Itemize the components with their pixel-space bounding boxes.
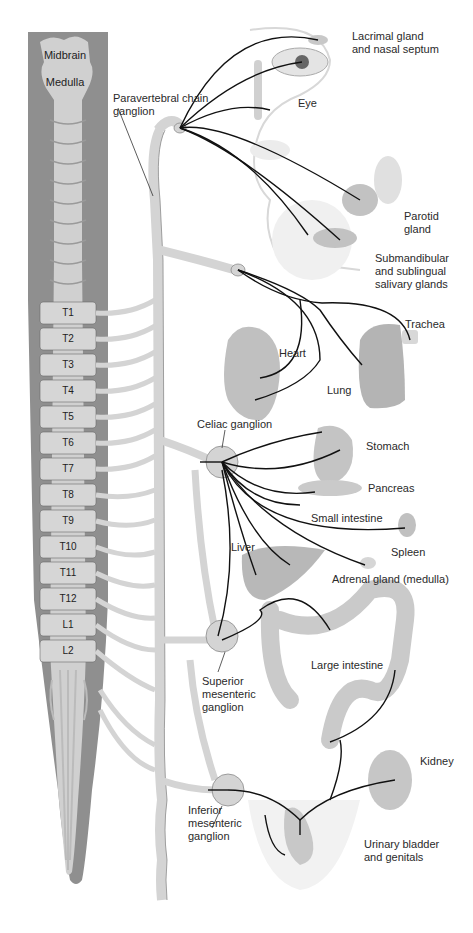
label-heart: Heart xyxy=(279,347,306,360)
stomach-organ xyxy=(314,426,354,485)
segment-l2: L2 xyxy=(53,645,83,656)
label-superior-mesenteric-ganglion: Superior mesenteric ganglion xyxy=(202,675,256,714)
heart-organ xyxy=(224,327,280,421)
label-kidney: Kidney xyxy=(420,755,454,768)
label-paravertebral-ganglion: Paravertebral chain ganglion xyxy=(113,92,208,118)
label-submandibular-glands: Submandibular and sublingual salivary gl… xyxy=(375,252,449,291)
segment-t3: T3 xyxy=(53,359,83,370)
label-medulla: Medulla xyxy=(40,76,90,88)
kidney-organ xyxy=(368,750,412,810)
ear-organ xyxy=(374,156,402,204)
label-large-intestine: Large intestine xyxy=(311,659,383,672)
segment-l1: L1 xyxy=(53,619,83,630)
segment-t1: T1 xyxy=(53,307,83,318)
segment-t11: T11 xyxy=(53,567,83,578)
label-inferior-mesenteric-ganglion: Inferior mesenteric ganglion xyxy=(188,804,242,843)
segment-t8: T8 xyxy=(53,489,83,500)
lung-organ xyxy=(359,324,405,408)
label-spleen: Spleen xyxy=(391,546,425,559)
label-midbrain: Midbrain xyxy=(40,49,90,61)
label-pancreas: Pancreas xyxy=(368,482,414,495)
segment-t12: T12 xyxy=(53,593,83,604)
pancreas-organ xyxy=(298,480,362,496)
segment-t10: T10 xyxy=(53,541,83,552)
label-celiac-ganglion: Celiac ganglion xyxy=(197,418,272,431)
segment-t9: T9 xyxy=(53,515,83,526)
liver-organ xyxy=(242,546,325,600)
segment-t5: T5 xyxy=(53,411,83,422)
spleen-organ xyxy=(398,513,416,537)
label-trachea: Trachea xyxy=(405,318,445,331)
segment-t2: T2 xyxy=(53,333,83,344)
label-urinary-bladder: Urinary bladder and genitals xyxy=(364,838,439,864)
segment-t4: T4 xyxy=(53,385,83,396)
label-lung: Lung xyxy=(327,384,351,397)
adrenal-organ xyxy=(360,557,376,569)
spinal-column xyxy=(28,32,108,884)
segment-t7: T7 xyxy=(53,463,83,474)
label-adrenal-gland: Adrenal gland (medulla) xyxy=(332,573,449,586)
label-liver: Liver xyxy=(231,541,255,554)
label-parotid-gland: Parotid gland xyxy=(404,210,439,236)
label-lacrimal-gland: Lacrimal gland and nasal septum xyxy=(352,30,439,56)
trachea-organ xyxy=(402,330,418,344)
segment-t6: T6 xyxy=(53,437,83,448)
label-eye: Eye xyxy=(298,97,317,110)
superior-mesenteric-ganglion xyxy=(206,620,238,652)
sympathetic-nervous-system-diagram: Midbrain Medulla T1 T2 T3 T4 T5 T6 T7 T8… xyxy=(0,0,473,933)
label-stomach: Stomach xyxy=(366,440,409,453)
submandibular-organ xyxy=(313,228,357,248)
label-small-intestine: Small intestine xyxy=(311,512,383,525)
